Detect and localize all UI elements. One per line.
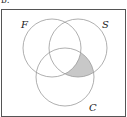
venn-diagram: F S C: [0, 0, 127, 117]
set-f-circle: [23, 19, 81, 77]
set-c-label: C: [89, 102, 97, 113]
set-s-label: S: [102, 19, 109, 30]
set-f-label: F: [20, 19, 29, 30]
